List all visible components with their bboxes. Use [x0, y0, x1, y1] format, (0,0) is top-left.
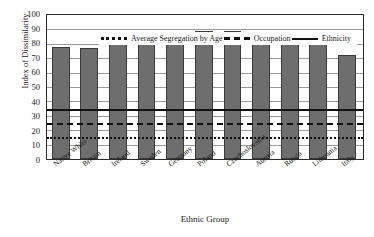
- y-tick-40: 40: [32, 97, 41, 106]
- solid-line-icon: [292, 38, 318, 40]
- bar-italy: [338, 55, 356, 159]
- legend-label-occupation: Occupation: [254, 35, 291, 43]
- y-tick-10: 10: [32, 141, 41, 150]
- y-tick-90: 90: [32, 24, 41, 33]
- bar-poland: [195, 31, 213, 159]
- chart-legend: Average Segregation by Age Occupation Et…: [99, 32, 357, 45]
- bar-czechoslovakia: [224, 31, 242, 159]
- reference-line-ethnicity: [47, 109, 363, 111]
- dotted-line-icon: [101, 37, 127, 40]
- y-tick-0: 0: [36, 156, 40, 165]
- bar-germany: [166, 38, 184, 159]
- y-axis-ticks: 100 90 80 70 60 50 40 30 20 10 0: [0, 14, 44, 160]
- reference-line-average-segregation-by-age: [47, 137, 363, 139]
- y-tick-30: 30: [32, 112, 41, 121]
- y-tick-100: 100: [27, 10, 40, 19]
- x-axis-title: Ethnic Group: [46, 214, 364, 224]
- bar-ireland: [109, 44, 127, 159]
- plot-area: Average Segregation by Age Occupation Et…: [46, 14, 364, 160]
- legend-item-occupation: Occupation: [224, 35, 291, 43]
- legend-item-average-segregation-by-age: Average Segregation by Age: [101, 35, 223, 43]
- bar-russia: [281, 34, 299, 159]
- reference-line-occupation: [47, 123, 363, 125]
- bar-sweden: [138, 37, 156, 159]
- y-tick-20: 20: [32, 127, 41, 136]
- y-tick-50: 50: [32, 83, 41, 92]
- bar-lithuania: [309, 37, 327, 159]
- y-tick-70: 70: [32, 54, 41, 63]
- chart-container: Index of Dissimilarity 100 90 80 70 60 5…: [0, 0, 374, 237]
- legend-item-ethnicity: Ethnicity: [292, 35, 351, 43]
- y-tick-80: 80: [32, 39, 41, 48]
- y-tick-60: 60: [32, 68, 41, 77]
- dashed-line-icon: [224, 37, 250, 40]
- x-axis-ticks: Native White Britain Ireland Sweden Germ…: [46, 162, 364, 210]
- bar-native-white: [52, 47, 70, 159]
- legend-label-average-segregation-by-age: Average Segregation by Age: [131, 35, 223, 43]
- legend-label-ethnicity: Ethnicity: [322, 35, 351, 43]
